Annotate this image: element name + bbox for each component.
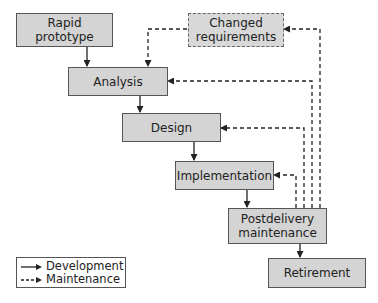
dashed-arrow-icon (21, 276, 43, 284)
retirement-label: Retirement (284, 266, 351, 280)
changed-requirements-box: Changed requirements (188, 13, 284, 47)
rapid-prototype-label-line2: prototype (35, 30, 93, 44)
implementation-label: Implementation (177, 169, 272, 183)
rapid-prototype-box: Rapid prototype (16, 13, 113, 47)
changed-requirements-label-line2: requirements (196, 30, 276, 44)
postdelivery-maintenance-box: Postdelivery maintenance (228, 208, 327, 244)
legend-maintenance-label: Maintenance (46, 273, 120, 286)
implementation-box: Implementation (175, 161, 274, 190)
legend-maintenance: Maintenance (17, 273, 125, 286)
postdelivery-label-line2: maintenance (238, 226, 317, 240)
legend: Development Maintenance (16, 257, 126, 288)
design-label: Design (151, 121, 192, 135)
retirement-box: Retirement (268, 258, 366, 288)
design-box: Design (122, 113, 221, 142)
solid-arrow-icon (21, 263, 43, 271)
changed-requirements-label-line1: Changed (209, 16, 263, 30)
rapid-prototype-label-line1: Rapid (48, 16, 82, 30)
analysis-label: Analysis (93, 75, 142, 89)
postdelivery-label-line1: Postdelivery (241, 212, 314, 226)
analysis-box: Analysis (68, 67, 168, 96)
